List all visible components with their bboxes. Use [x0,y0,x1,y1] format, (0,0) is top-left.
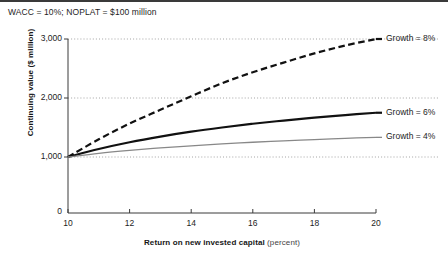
y-tick-label: 3,000 [16,33,62,43]
x-axis-title-main: Return on new invested capital [144,238,265,247]
x-axis-title: Return on new invested capital (percent) [68,238,376,247]
x-axis-title-unit: (percent) [267,238,300,247]
x-tick-label: 10 [53,218,83,228]
origin-tick-label: 0 [46,206,62,216]
series-label-2: Growth = 4% [386,131,435,141]
x-tick-label: 14 [176,218,206,228]
series-line-1 [68,113,376,157]
x-tick-label: 12 [115,218,145,228]
series-label-0: Growth = 8% [386,33,435,43]
y-tick-label: 2,000 [16,92,62,102]
series-line-2 [68,137,376,157]
tick-marks [64,39,376,213]
chart-figure: WACC = 10%; NOPLAT = $100 million 1,0002… [0,0,448,259]
x-tick-label: 18 [299,218,329,228]
y-axis-title: Continuing value ($ million) [26,23,35,143]
x-tick-label: 20 [361,218,391,228]
y-tick-label: 1,000 [16,151,62,161]
gridlines [68,39,440,157]
x-tick-label: 16 [238,218,268,228]
series-label-1: Growth = 6% [386,107,435,117]
axis-lines [68,39,376,213]
